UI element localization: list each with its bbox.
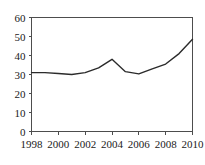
x-tick-label: 2004 — [101, 138, 124, 150]
x-tick-label: 2006 — [128, 138, 151, 150]
y-tick-label: 60 — [15, 12, 27, 24]
line-chart: 0102030405060 19982000200220042006200820… — [0, 0, 205, 165]
y-tick-label: 30 — [15, 69, 27, 81]
y-tick-label: 50 — [15, 31, 27, 43]
y-tick-label: 40 — [15, 50, 27, 62]
y-tick-label: 0 — [20, 126, 26, 138]
x-tick-label: 1998 — [21, 138, 44, 150]
chart-canvas: 0102030405060 19982000200220042006200820… — [0, 0, 205, 165]
x-tick-label: 2000 — [47, 138, 70, 150]
y-tick-label: 10 — [15, 107, 27, 119]
x-tick-label: 2008 — [155, 138, 178, 150]
y-axis: 0102030405060 — [15, 12, 32, 138]
data-series — [32, 39, 193, 74]
y-tick-label: 20 — [15, 88, 27, 100]
series-line-series-1 — [32, 39, 193, 74]
plot-frame — [32, 18, 193, 132]
x-tick-label: 2010 — [182, 138, 205, 150]
x-tick-label: 2002 — [74, 138, 96, 150]
x-axis: 1998200020022004200620082010 — [21, 132, 205, 150]
